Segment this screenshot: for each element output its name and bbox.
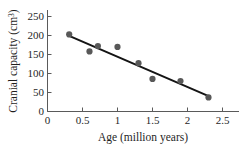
data-point [95,43,101,49]
x-tick-label: 1 [115,114,121,126]
y-tick-label: 100 [28,67,45,79]
y-tick-label: 150 [28,48,45,60]
y-tick-label: 250 [28,10,45,22]
data-point [86,48,92,54]
data-points-group [66,31,212,100]
x-tick-label: 0.5 [76,114,90,126]
y-axis-title-main: Cranial capacity (cm [7,17,20,113]
data-point [149,76,155,82]
y-tick-label: 0 [39,105,45,117]
y-tick-label: 50 [33,86,45,98]
x-axis-tick-labels: 0 0.5 1 1.5 2 2.5 [45,114,230,126]
x-axis-title: Age (million years) [98,131,188,144]
y-axis-ticks [48,17,52,112]
x-tick-label: 1.5 [146,114,160,126]
y-axis-title: Cranial capacity (cm3) [7,9,21,113]
data-point [114,44,120,50]
x-tick-label: 0 [45,114,51,126]
data-point [66,31,72,37]
data-point [205,94,211,100]
y-axis-tick-labels: 0 50 100 150 200 250 [28,10,45,117]
data-point [177,78,183,84]
chart-canvas: 0 50 100 150 200 250 0 0.5 1 1.5 2 2.5 A… [0,0,246,147]
x-tick-label: 2 [185,114,191,126]
svg-text:Cranial capacity (cm3): Cranial capacity (cm3) [7,9,21,113]
x-axis-ticks [48,108,223,112]
y-tick-label: 200 [28,29,45,41]
x-tick-label: 2.5 [216,114,230,126]
cranial-capacity-scatter-chart: 0 50 100 150 200 250 0 0.5 1 1.5 2 2.5 A… [0,0,246,147]
y-axis-title-suffix: ) [7,9,20,13]
data-point [135,60,141,66]
